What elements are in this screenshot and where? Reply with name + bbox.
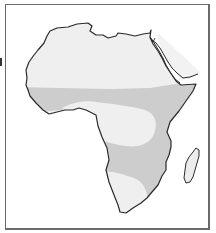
madagascar [184,148,199,183]
africa-map [0,0,216,233]
